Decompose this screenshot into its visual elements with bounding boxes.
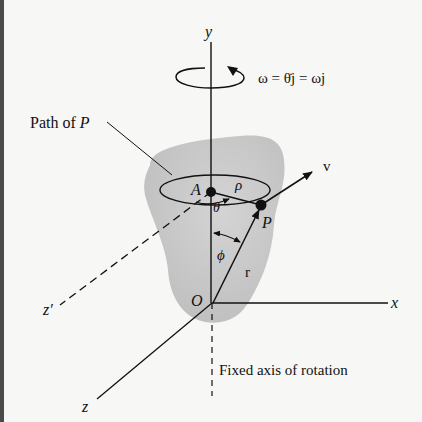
rho-label: ρ (234, 177, 242, 193)
rotation-diagram: y ω = θ̇j = ωj Path of P A ρ θ P v ϕ r O… (0, 0, 422, 422)
omega-equation-label: ω = θ̇j = ωj (258, 70, 325, 86)
path-label-leader-line (107, 122, 172, 175)
origin-label: O (191, 292, 203, 309)
v-vector-label: v (323, 158, 331, 174)
theta-label: θ (213, 200, 220, 215)
x-axis-label: x (390, 294, 398, 311)
fixed-axis-label: Fixed axis of rotation (219, 362, 348, 378)
z-prime-axis-label: z′ (42, 301, 53, 318)
point-p-dot (256, 200, 267, 211)
phi-label: ϕ (217, 247, 225, 263)
circular-rotation-arrow-icon (176, 66, 244, 88)
r-vector-label: r (245, 264, 250, 280)
point-a-dot (206, 187, 216, 197)
point-a-label: A (190, 181, 201, 198)
z-axis-line (97, 303, 212, 399)
path-of-p-label: Path of P (30, 114, 90, 131)
z-axis-label: z (81, 398, 89, 415)
point-p-label: P (261, 214, 272, 231)
y-axis-label: y (203, 23, 213, 41)
